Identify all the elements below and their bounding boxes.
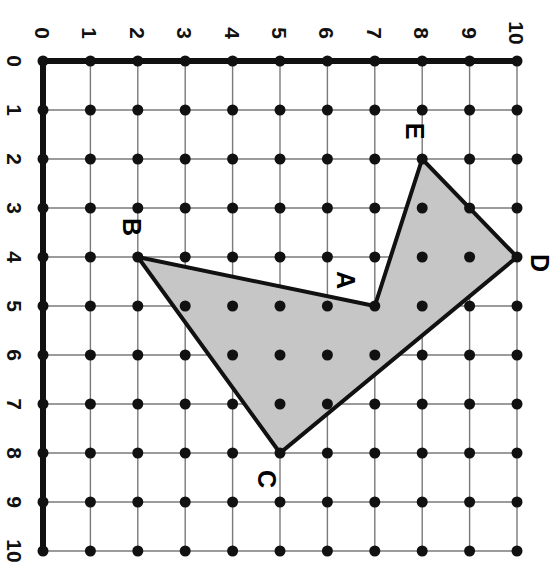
lattice-dot [322,56,333,67]
lattice-dot [85,203,96,214]
lattice-dot [322,546,333,557]
lattice-dot [132,546,143,557]
lattice-dot [512,252,523,263]
lattice-dot [369,399,380,410]
lattice-dot [85,448,96,459]
lattice-dot [417,301,428,312]
y-axis-tick-label-1: 1 [5,95,25,125]
lattice-dot [180,448,191,459]
lattice-dot [275,203,286,214]
lattice-dot [369,105,380,116]
lattice-dot [275,56,286,67]
lattice-dot [132,350,143,361]
lattice-dot [322,399,333,410]
x-axis-tick-label-0: 0 [33,18,53,48]
vertex-label-b: B [118,215,144,239]
lattice-dot [512,546,523,557]
lattice-dot [180,105,191,116]
lattice-dot [38,252,49,263]
x-axis-tick-label-9: 9 [460,18,480,48]
lattice-dot [180,203,191,214]
lattice-dot [464,448,475,459]
lattice-dot [369,154,380,165]
lattice-dot [464,399,475,410]
lattice-dot [227,350,238,361]
lattice-dot [227,56,238,67]
lattice-dot [275,399,286,410]
x-axis-tick-label-2: 2 [128,18,148,48]
lattice-dot [85,252,96,263]
x-axis-tick-label-8: 8 [412,18,432,48]
lattice-dot [369,448,380,459]
vertex-label-d: D [526,251,552,275]
lattice-dot [512,399,523,410]
lattice-dot [227,399,238,410]
y-axis-tick-label-8: 8 [5,438,25,468]
lattice-dot [227,448,238,459]
lattice-dot [464,154,475,165]
vertex-label-a: A [332,268,358,292]
lattice-dot [227,546,238,557]
lattice-dot [322,350,333,361]
lattice-dot [275,546,286,557]
lattice-dot [275,301,286,312]
lattice-dot [38,105,49,116]
lattice-dot [85,301,96,312]
lattice-dot [180,497,191,508]
y-axis-tick-label-0: 0 [5,46,25,76]
vertex-label-e: E [401,119,427,143]
lattice-dot [512,350,523,361]
lattice-dot [464,301,475,312]
lattice-dot [180,56,191,67]
lattice-dot [85,105,96,116]
lattice-dot [322,497,333,508]
lattice-dot [38,56,49,67]
lattice-dot [132,154,143,165]
x-axis-tick-label-10: 10 [507,18,527,48]
lattice-dot [417,252,428,263]
lattice-dot [132,448,143,459]
lattice-dot [512,56,523,67]
lattice-dot [38,399,49,410]
y-axis-tick-label-5: 5 [5,291,25,321]
lattice-dot [275,448,286,459]
lattice-dot [512,448,523,459]
vertex-label-c: C [253,467,279,491]
lattice-dot [322,154,333,165]
lattice-dot [132,301,143,312]
lattice-dot [85,154,96,165]
lattice-dot [369,203,380,214]
lattice-dot [417,399,428,410]
lattice-dot [464,546,475,557]
lattice-dot [464,350,475,361]
x-axis-tick-label-3: 3 [175,18,195,48]
lattice-dot [180,301,191,312]
lattice-dot [132,399,143,410]
lattice-dot [275,497,286,508]
lattice-dot [369,252,380,263]
lattice-dot [322,203,333,214]
lattice-dot [322,105,333,116]
lattice-dot [464,252,475,263]
lattice-dot [38,546,49,557]
lattice-dot [38,203,49,214]
lattice-dot [417,56,428,67]
lattice-dot [227,203,238,214]
y-axis-tick-label-3: 3 [5,193,25,223]
y-axis-tick-label-2: 2 [5,144,25,174]
lattice-dot [85,56,96,67]
x-axis-tick-label-5: 5 [270,18,290,48]
lattice-dot [417,448,428,459]
lattice-dot [180,399,191,410]
lattice-dot [227,105,238,116]
lattice-dot [512,105,523,116]
lattice-dot [227,154,238,165]
lattice-dot [322,252,333,263]
lattice-dot [512,497,523,508]
y-axis-tick-label-7: 7 [5,389,25,419]
lattice-dot [85,497,96,508]
lattice-dot [85,546,96,557]
lattice-dot [417,203,428,214]
lattice-dot [417,105,428,116]
